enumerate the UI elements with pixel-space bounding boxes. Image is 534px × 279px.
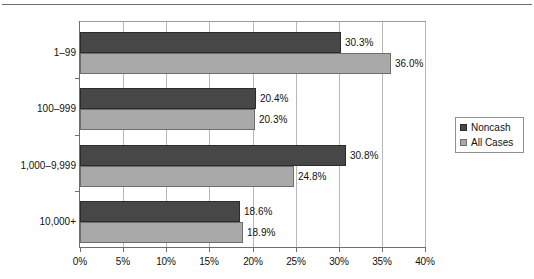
bar-noncash: [80, 145, 346, 166]
x-tick-0: [80, 248, 81, 252]
bar-all-cases: [80, 53, 391, 74]
x-tick-label: 0%: [60, 256, 100, 268]
top-divider-rule: [2, 4, 532, 5]
x-tick-15: [209, 248, 210, 252]
noncash-swatch-icon: [460, 124, 467, 131]
x-tick-35: [382, 248, 383, 252]
category-label: 1,000–9,999: [20, 160, 76, 172]
bar-noncash: [80, 201, 240, 222]
y-axis-line: [79, 21, 80, 248]
gridline-40: [425, 22, 426, 247]
x-tick-label: 35%: [362, 256, 402, 268]
x-tick-label: 40%: [405, 256, 445, 268]
bar-value-label: 20.4%: [260, 93, 288, 105]
all-cases-swatch-icon: [460, 139, 467, 146]
category-label: 1–99: [54, 47, 76, 59]
x-tick-30: [339, 248, 340, 252]
chart-legend: Noncash All Cases: [455, 117, 524, 153]
bar-all-cases: [80, 109, 255, 130]
category-label: 100–999: [37, 103, 76, 115]
bar-noncash: [80, 32, 341, 53]
x-tick-label: 30%: [319, 256, 359, 268]
x-tick-20: [253, 248, 254, 252]
x-tick-5: [123, 248, 124, 252]
legend-label-noncash: Noncash: [471, 122, 510, 133]
bar-noncash: [80, 88, 256, 109]
category-label: 10,000+: [40, 216, 76, 228]
bar-value-label: 24.8%: [298, 171, 326, 183]
x-tick-label: 5%: [103, 256, 143, 268]
bar-value-label: 36.0%: [395, 58, 423, 70]
x-tick-40: [425, 248, 426, 252]
bar-value-label: 30.8%: [350, 150, 378, 162]
x-tick-label: 10%: [146, 256, 186, 268]
bar-value-label: 18.9%: [247, 227, 275, 239]
legend-entry-all-cases[interactable]: All Cases: [460, 137, 513, 148]
x-tick-10: [166, 248, 167, 252]
chart-figure: 30.3%36.0%20.4%20.3%30.8%24.8%18.6%18.9%…: [0, 0, 534, 279]
legend-label-all-cases: All Cases: [471, 137, 513, 148]
bar-all-cases: [80, 222, 243, 243]
bar-value-label: 20.3%: [259, 114, 287, 126]
bar-value-label: 18.6%: [244, 206, 272, 218]
bar-value-label: 30.3%: [345, 37, 373, 49]
legend-entry-noncash[interactable]: Noncash: [460, 122, 510, 133]
x-tick-label: 20%: [233, 256, 273, 268]
bar-all-cases: [80, 166, 294, 187]
x-tick-label: 25%: [276, 256, 316, 268]
x-tick-label: 15%: [189, 256, 229, 268]
x-tick-25: [296, 248, 297, 252]
